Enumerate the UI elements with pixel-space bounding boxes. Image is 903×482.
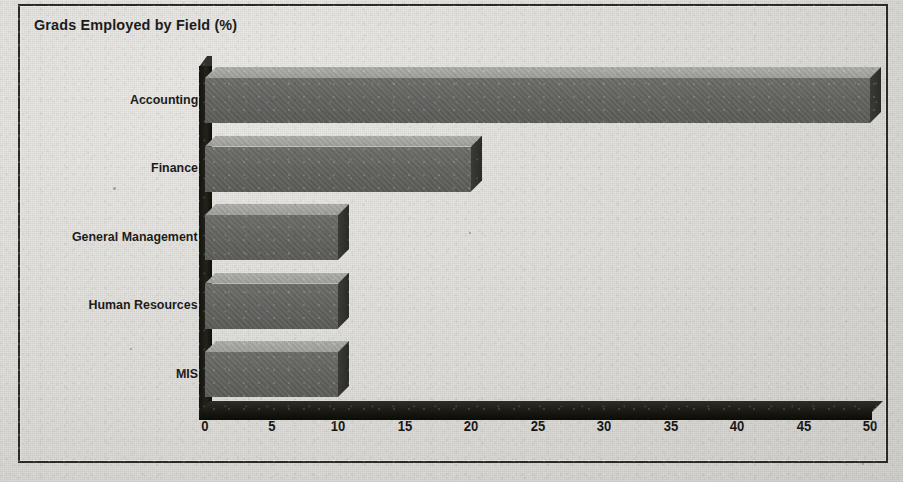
x-axis-tick-label: 10 xyxy=(331,418,346,434)
bar-front-face xyxy=(205,147,471,192)
y-axis-category-label: Accounting xyxy=(130,92,198,107)
scan-speck xyxy=(469,232,471,234)
x-axis-tick-label: 20 xyxy=(464,418,479,434)
bar-front-face xyxy=(205,78,870,123)
scan-speck xyxy=(862,463,864,465)
x-axis-tick-label: 5 xyxy=(268,418,275,434)
x-axis-tick-label: 35 xyxy=(663,418,678,434)
x-axis-tick-label: 25 xyxy=(530,418,545,434)
x-axis-tick-label: 50 xyxy=(863,418,878,434)
bar-top-face xyxy=(205,67,881,78)
scan-speck xyxy=(130,348,132,350)
bar xyxy=(205,204,349,260)
bar-top-face xyxy=(205,273,349,284)
bar xyxy=(205,136,482,192)
bar-front-face xyxy=(205,352,338,397)
chart-page: Grads Employed by Field (%) AccountingFi… xyxy=(0,0,903,482)
plot-area: AccountingFinanceGeneral ManagementHuman… xyxy=(0,0,903,482)
bar xyxy=(205,67,881,123)
scan-speck xyxy=(113,187,116,190)
x-axis-tick-label: 30 xyxy=(597,418,612,434)
y-axis-category-label: MIS xyxy=(176,366,198,381)
x-axis-tick-label: 45 xyxy=(796,418,811,434)
x-axis-tick-label: 0 xyxy=(201,418,208,434)
bar xyxy=(205,341,349,397)
bar-front-face xyxy=(205,215,338,260)
bar-top-face xyxy=(205,341,349,352)
y-axis-category-label: General Management xyxy=(72,229,198,244)
bar-front-face xyxy=(205,284,338,329)
bar-top-face xyxy=(205,204,349,215)
x-axis-tick-label: 40 xyxy=(730,418,745,434)
y-axis-category-label: Finance xyxy=(151,160,198,175)
bar xyxy=(205,273,349,329)
bar-top-face xyxy=(205,136,482,147)
y-axis-category-label: Human Resources xyxy=(89,297,198,312)
x-axis-tick-label: 15 xyxy=(397,418,412,434)
